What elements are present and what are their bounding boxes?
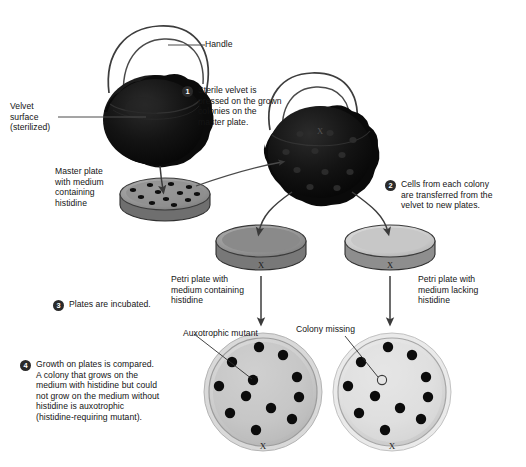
master-plate-illustration — [120, 178, 210, 221]
label-handle: Handle — [205, 39, 233, 50]
label-master-plate: Master plate with medium containing hist… — [55, 166, 104, 208]
result-plate-with-histidine-illustration: X — [194, 333, 322, 451]
step-1-badge: 1 — [182, 86, 193, 97]
label-auxotrophic-mutant: Auxotrophic mutant — [183, 328, 258, 339]
label-petri-lacking-histidine: Petri plate with medium lacking histidin… — [418, 274, 478, 306]
label-velvet-surface: Velvet surface (sterilized) — [10, 101, 50, 133]
plate-orientation-x-right: X — [387, 260, 393, 270]
label-colony-missing: Colony missing — [296, 324, 355, 335]
step-3-text: Plates are incubated. — [69, 299, 151, 310]
velvet-orientation-x: X — [317, 126, 323, 136]
step-3-badge: 3 — [53, 300, 64, 311]
result-plate-lacking-histidine-illustration: X — [333, 333, 451, 451]
step-4-text: Growth on plates is compared. A colony t… — [36, 359, 159, 423]
step-1-text: Sterile velvet is pressed on the grown c… — [198, 85, 282, 127]
label-petri-with-histidine: Petri plate with medium containing histi… — [171, 274, 244, 306]
fresh-plate-lacking-histidine-illustration: X — [345, 225, 435, 270]
fresh-plate-with-histidine-illustration: X — [216, 225, 306, 270]
result-right-orientation-x: X — [389, 441, 396, 451]
result-left-orientation-x: X — [260, 441, 267, 451]
step-2-badge: 2 — [385, 180, 396, 191]
step-4-badge: 4 — [20, 360, 31, 371]
step-2-text: Cells from each colony are transferred f… — [401, 179, 492, 211]
velvet-pad-sterile — [103, 26, 214, 168]
figure-canvas: X X X — [0, 0, 526, 467]
plate-orientation-x-left: X — [258, 260, 264, 270]
